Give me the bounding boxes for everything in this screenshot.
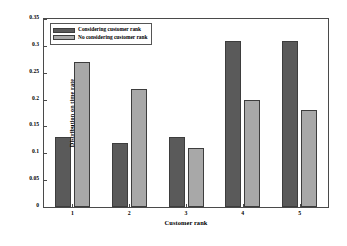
bar — [74, 62, 90, 207]
y-tick-label: 0.1 — [32, 149, 39, 155]
bar — [244, 100, 260, 207]
bar — [282, 41, 298, 208]
y-tick-label: 0 — [36, 203, 39, 209]
chart-legend: Considering customer rankNo considering … — [50, 23, 152, 45]
legend-swatch — [53, 35, 75, 40]
bar — [225, 41, 241, 208]
y-tick-mark — [44, 73, 47, 74]
legend-label: No considering customer rank — [78, 35, 148, 40]
legend-swatch — [53, 28, 75, 33]
x-tick-label: 2 — [119, 211, 139, 217]
bar — [301, 110, 317, 207]
y-tick-mark — [44, 46, 47, 47]
y-tick-mark — [44, 100, 47, 101]
y-tick-label: 0.35 — [29, 15, 39, 21]
y-axis-label: Distribution on time rate — [69, 38, 75, 188]
bar — [169, 137, 185, 207]
y-tick-label: 0.25 — [29, 69, 39, 75]
bar — [131, 89, 147, 207]
y-tick-label: 0.15 — [29, 122, 39, 128]
bar — [188, 148, 204, 207]
legend-entry: No considering customer rank — [53, 34, 148, 41]
legend-entry: Considering customer rank — [53, 27, 148, 34]
x-axis-label: Customer rank — [44, 220, 328, 226]
y-tick-mark — [44, 126, 47, 127]
x-tick-label: 3 — [176, 211, 196, 217]
x-tick-label: 4 — [233, 211, 253, 217]
x-tick-label: 1 — [62, 211, 82, 217]
y-tick-mark — [44, 207, 47, 208]
plot-area: 00.050.10.150.20.250.30.35 12345 Distrib… — [43, 18, 329, 208]
y-tick-label: 0.2 — [32, 96, 39, 102]
x-tick-label: 5 — [290, 211, 310, 217]
bar — [112, 143, 128, 207]
y-tick-mark — [44, 19, 47, 20]
y-tick-label: 0.05 — [29, 176, 39, 182]
y-tick-mark — [44, 153, 47, 154]
y-tick-label: 0.3 — [32, 42, 39, 48]
legend-label: Considering customer rank — [78, 27, 141, 32]
chart-figure: 00.050.10.150.20.250.30.35 12345 Distrib… — [0, 0, 347, 246]
y-tick-mark — [44, 180, 47, 181]
